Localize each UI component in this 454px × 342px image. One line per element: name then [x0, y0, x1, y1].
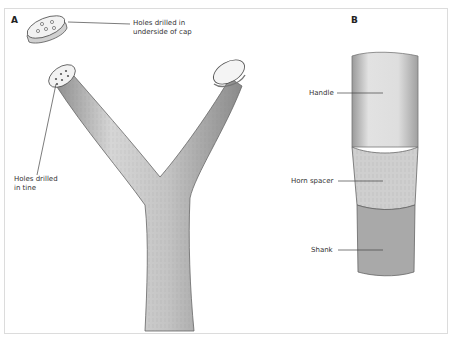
panel-letter-b: B [351, 15, 358, 25]
label-tine-holes: Holes drilled in tine [14, 175, 58, 193]
label-cap-line1: Holes drilled in [133, 19, 192, 28]
illustration [0, 0, 454, 342]
leader-tine [37, 84, 56, 175]
label-tine-line1: Holes drilled [14, 175, 58, 184]
label-handle: Handle [309, 89, 334, 98]
handle-assembly [352, 52, 418, 276]
label-cap-line2: underside of cap [133, 28, 192, 37]
detached-cap [24, 11, 68, 43]
leader-cap [68, 22, 130, 24]
panel-letter-a: A [11, 15, 18, 25]
forked-branch [45, 55, 249, 331]
label-shank: Shank [311, 246, 333, 255]
label-tine-line2: in tine [14, 184, 58, 193]
shank [357, 205, 415, 276]
label-cap-holes: Holes drilled in underside of cap [133, 19, 192, 37]
label-horn-spacer: Horn spacer [291, 177, 333, 186]
